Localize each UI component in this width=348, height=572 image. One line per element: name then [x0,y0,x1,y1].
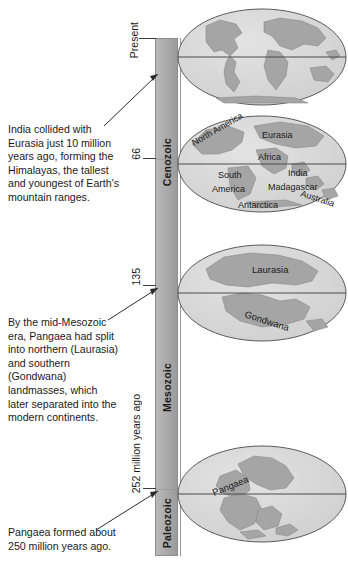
continental-drift-diagram: Cenozoic Mesozoic Paleozoic Present 66 1… [0,0,348,572]
leader-line-cenozoic [0,0,348,572]
note-cenozoic: India collided with Eurasia just 10 mill… [8,123,120,205]
note-mesozoic: By the mid-Mesozoic era, Pangaea had spl… [8,316,120,425]
note-paleozoic: Pangaea formed about 250 million years a… [8,526,120,553]
